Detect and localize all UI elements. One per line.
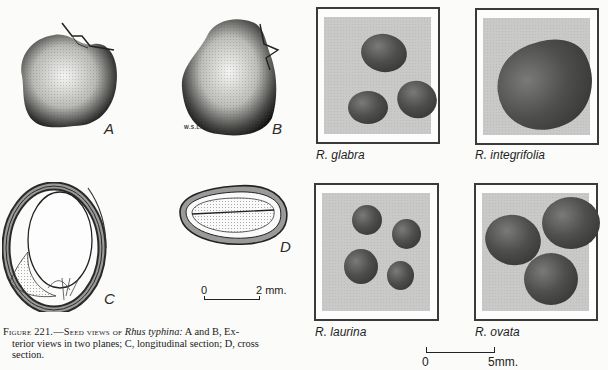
artist-signature: W.S.L. — [184, 124, 202, 130]
photo-caption-r-laurina: R. laurina — [315, 325, 366, 339]
scale-right-line — [426, 347, 495, 353]
seed — [392, 75, 442, 123]
panel-label-b: B — [272, 120, 282, 137]
seed — [352, 205, 382, 235]
photo-background — [322, 193, 430, 311]
seed-exterior-b-illustration — [178, 14, 286, 138]
caption-line-3: section. — [3, 349, 301, 361]
photo-r-glabra — [316, 7, 440, 144]
drawing-panel-b — [178, 14, 286, 138]
panel-label-a: A — [104, 120, 114, 137]
photo-r-integrifolia — [475, 8, 599, 145]
scale-right-start: 0 — [422, 355, 429, 369]
seed — [482, 23, 608, 147]
photo-caption-r-ovata: R. ovata — [475, 325, 520, 339]
figure-caption: Figure 221.—Seed views of Rhus typhina: … — [3, 326, 301, 361]
scale-left-line — [204, 296, 260, 300]
caption-lead: Figure 221.—Seed views of — [3, 326, 125, 337]
seed — [524, 253, 578, 305]
photo-background — [324, 17, 431, 134]
seed-exterior-a-illustration — [14, 18, 124, 134]
photo-r-ovata — [474, 183, 598, 321]
drawing-panel-d — [176, 182, 290, 248]
photo-background — [482, 193, 589, 311]
photo-background — [483, 18, 590, 135]
longitudinal-section-illustration — [2, 182, 110, 312]
scale-left-start: 0 — [201, 284, 207, 296]
caption-line-1: Figure 221.—Seed views of Rhus typhina: … — [3, 326, 239, 337]
seed — [392, 219, 421, 249]
drawing-panel-a — [14, 18, 124, 134]
caption-line1-rest: A and B, Ex- — [183, 326, 239, 337]
seed — [542, 197, 600, 249]
photo-caption-r-integrifolia: R. integrifolia — [475, 148, 545, 162]
drawing-panel-c — [2, 182, 110, 312]
cross-section-illustration — [176, 182, 290, 248]
panel-label-c: C — [104, 290, 115, 307]
photo-caption-r-glabra: R. glabra — [316, 148, 365, 162]
seed — [358, 30, 410, 75]
seed — [344, 249, 378, 284]
caption-species: Rhus typhina: — [125, 326, 183, 337]
scale-left-end: 2 mm. — [256, 284, 287, 296]
scale-right-end: 5mm. — [488, 355, 518, 369]
panel-label-d: D — [280, 238, 291, 255]
photo-r-laurina — [314, 183, 439, 321]
caption-line-2: terior views in two planes; C, longitudi… — [3, 338, 301, 350]
seed — [387, 261, 414, 290]
seed — [348, 91, 388, 124]
